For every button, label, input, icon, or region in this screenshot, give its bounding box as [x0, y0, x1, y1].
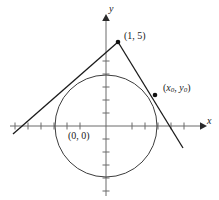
x-axis-label: x [207, 116, 211, 126]
tangency-close-paren: ) [187, 82, 190, 93]
origin-label: (0, 0) [68, 131, 90, 141]
tangent-line-left [13, 42, 118, 134]
y-axis [102, 14, 110, 196]
math-figure: (1, 5) (x0, y0) (0, 0) x y [0, 0, 219, 200]
tangency-point-label: (x0, y0) [163, 83, 191, 94]
tangency-point-dot [153, 93, 158, 98]
tangent-line-right [118, 42, 183, 148]
external-point-dot [116, 40, 121, 45]
figure-canvas [0, 0, 219, 200]
y-axis-label: y [109, 4, 113, 14]
x-axis-arrowhead [200, 122, 207, 130]
external-point-label: (1, 5) [124, 31, 146, 41]
y-axis-arrowhead [102, 14, 110, 21]
x-axis [10, 122, 207, 130]
